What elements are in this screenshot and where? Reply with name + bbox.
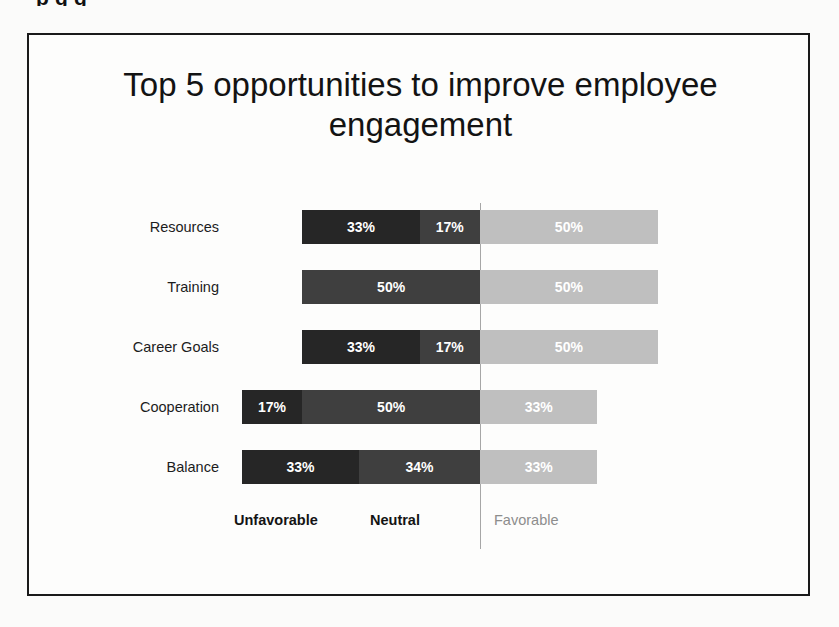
- bar-row: Cooperation17%50%33%: [29, 390, 812, 424]
- bar-segment-value: 17%: [436, 339, 464, 355]
- bar-segment-neutral: 50%: [302, 390, 480, 424]
- legend-item-favorable: Favorable: [494, 512, 558, 528]
- zero-divider-line: [480, 203, 481, 549]
- bar-segment-value: 17%: [436, 219, 464, 235]
- stacked-bar: 17%50%33%: [242, 390, 598, 424]
- bar-segment-value: 33%: [525, 459, 553, 475]
- bar-segment-value: 33%: [347, 219, 375, 235]
- bar-segment-neutral: 17%: [420, 330, 480, 364]
- bar-row: Balance33%34%33%: [29, 450, 812, 484]
- bar-segment-neutral: 17%: [420, 210, 480, 244]
- bar-segment-favorable: 33%: [480, 390, 597, 424]
- bar-segment-value: 34%: [406, 459, 434, 475]
- bar-row-label: Resources: [29, 210, 219, 244]
- bar-segment-value: 33%: [286, 459, 314, 475]
- stacked-bar: 33%17%50%: [302, 330, 658, 364]
- slide-frame: Top 5 opportunities to improve employee …: [27, 33, 810, 596]
- bar-segment-neutral: 34%: [359, 450, 480, 484]
- bar-segment-favorable: 50%: [480, 270, 658, 304]
- bar-row: Resources33%17%50%: [29, 210, 812, 244]
- stacked-bar: 33%34%33%: [242, 450, 598, 484]
- bar-row: Training50%50%: [29, 270, 812, 304]
- bar-row-label: Training: [29, 270, 219, 304]
- bar-segment-favorable: 50%: [480, 330, 658, 364]
- bar-row-label: Balance: [29, 450, 219, 484]
- bar-row-label: Cooperation: [29, 390, 219, 424]
- bar-segment-value: 50%: [377, 399, 405, 415]
- bar-segment-favorable: 33%: [480, 450, 597, 484]
- bar-segment-value: 50%: [555, 219, 583, 235]
- bar-segment-neutral: 50%: [302, 270, 480, 304]
- chart-legend: Unfavorable Neutral Favorable: [29, 512, 812, 536]
- bar-row-label: Career Goals: [29, 330, 219, 364]
- bar-segment-unfavorable: 33%: [302, 330, 419, 364]
- legend-item-unfavorable: Unfavorable: [234, 512, 318, 528]
- bar-row: Career Goals33%17%50%: [29, 330, 812, 364]
- bar-segment-value: 50%: [377, 279, 405, 295]
- stacked-bar: 50%50%: [302, 270, 658, 304]
- bar-segment-favorable: 50%: [480, 210, 658, 244]
- bar-segment-unfavorable: 33%: [302, 210, 419, 244]
- cropped-heading-above-slide: p g g: [0, 0, 839, 6]
- stacked-bar: 33%17%50%: [302, 210, 658, 244]
- bar-segment-unfavorable: 17%: [242, 390, 302, 424]
- chart-plot-area: Resources33%17%50%Training50%50%Career G…: [29, 35, 812, 598]
- bar-segment-value: 50%: [555, 279, 583, 295]
- bar-segment-value: 33%: [525, 399, 553, 415]
- bar-segment-value: 17%: [258, 399, 286, 415]
- legend-item-neutral: Neutral: [370, 512, 420, 528]
- bar-segment-unfavorable: 33%: [242, 450, 359, 484]
- bar-segment-value: 50%: [555, 339, 583, 355]
- bar-segment-value: 33%: [347, 339, 375, 355]
